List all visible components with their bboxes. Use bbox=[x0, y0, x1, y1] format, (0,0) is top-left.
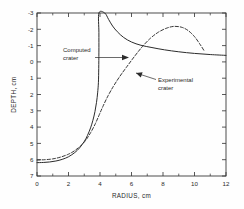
x-tick-label: 10 bbox=[191, 180, 198, 187]
computed-crater-label-line1: Computed bbox=[63, 47, 91, 53]
crater-depth-chart: 024681012 -3-2-101234567 RADIUS, cm DEPT… bbox=[0, 0, 244, 209]
x-tick-label: 2 bbox=[67, 180, 71, 187]
x-axis-title: RADIUS, cm bbox=[112, 192, 151, 199]
x-axis-tick-labels: 024681012 bbox=[35, 180, 230, 187]
experimental-crater-label-line2: crater bbox=[158, 85, 173, 91]
x-axis-major-ticks bbox=[37, 13, 226, 176]
y-tick-label: 7 bbox=[30, 172, 34, 179]
y-tick-label: 6 bbox=[30, 156, 34, 163]
y-axis-title: DEPTH, cm bbox=[10, 76, 17, 112]
experimental-crater-arrow-head bbox=[136, 72, 143, 77]
computed-crater-arrow-head bbox=[122, 55, 129, 60]
series-computed-crater bbox=[37, 11, 226, 162]
figure-container: 024681012 -3-2-101234567 RADIUS, cm DEPT… bbox=[0, 0, 244, 209]
experimental-crater-label-line1: Experimental bbox=[158, 77, 193, 83]
y-tick-label: 4 bbox=[30, 123, 34, 130]
y-tick-label: 3 bbox=[30, 107, 34, 114]
y-tick-label: 1 bbox=[30, 74, 34, 81]
annotation-computed-crater: Computed crater bbox=[63, 47, 129, 61]
y-tick-label: 0 bbox=[30, 58, 34, 65]
y-tick-label: -1 bbox=[28, 42, 34, 49]
data-series-group bbox=[37, 11, 226, 162]
y-tick-label: 2 bbox=[30, 91, 34, 98]
x-tick-label: 6 bbox=[130, 180, 134, 187]
computed-crater-label-line2: crater bbox=[63, 55, 78, 61]
x-tick-label: 0 bbox=[35, 180, 39, 187]
y-axis-major-ticks bbox=[37, 13, 226, 176]
annotation-experimental-crater: Experimental crater bbox=[136, 72, 193, 91]
y-tick-label: -2 bbox=[28, 26, 34, 33]
y-tick-label: -3 bbox=[28, 9, 34, 16]
plot-frame bbox=[37, 13, 226, 176]
x-tick-label: 4 bbox=[98, 180, 102, 187]
x-tick-label: 8 bbox=[161, 180, 165, 187]
x-tick-label: 12 bbox=[223, 180, 230, 187]
y-axis-tick-labels: -3-2-101234567 bbox=[28, 9, 34, 179]
y-tick-label: 5 bbox=[30, 140, 34, 147]
